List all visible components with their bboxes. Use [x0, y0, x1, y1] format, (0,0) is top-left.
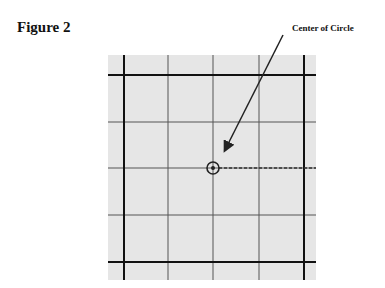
grid-diagram: [0, 0, 385, 288]
center-dot-icon: [211, 166, 215, 170]
